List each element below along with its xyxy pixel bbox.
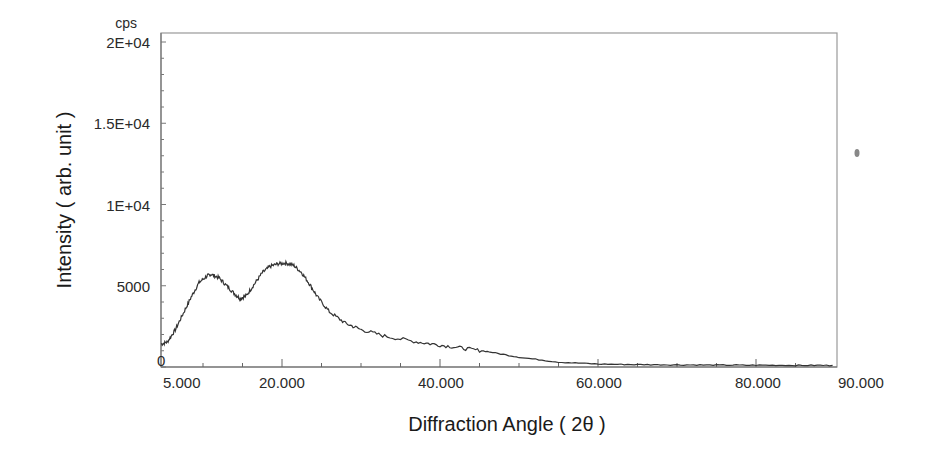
x-tick-label: 40.000 xyxy=(418,374,464,391)
x-tick-label: 20.000 xyxy=(259,374,305,391)
x-tick-label: 60.000 xyxy=(576,374,622,391)
x-tick-label: 5.000 xyxy=(163,374,201,391)
x-axis-ticks: 5.00020.00040.00060.00080.00090.000 xyxy=(163,359,884,391)
stray-smudge-mark xyxy=(855,149,860,157)
y-tick-label: 2E+04 xyxy=(106,34,150,51)
data-series-line xyxy=(161,261,833,366)
y-axis-title: Intensity ( arb. unit ) xyxy=(53,112,75,289)
y-tick-label: 1E+04 xyxy=(106,197,150,214)
plot-border xyxy=(161,33,837,367)
y-axis-ticks: 050001E+041.5E+042E+04 xyxy=(94,34,166,369)
x-tick-label: 90.000 xyxy=(838,374,884,391)
x-axis-title: Diffraction Angle ( 2θ ) xyxy=(408,413,606,435)
y-tick-label: 1.5E+04 xyxy=(94,115,150,132)
plot-frame xyxy=(161,33,837,367)
y-tick-label: 5000 xyxy=(117,278,150,295)
y-tick-label: 0 xyxy=(157,352,165,369)
y-unit-label: cps xyxy=(115,15,137,31)
x-tick-label: 80.000 xyxy=(735,374,781,391)
xrd-chart: 050001E+041.5E+042E+04 5.00020.00040.000… xyxy=(0,0,943,462)
